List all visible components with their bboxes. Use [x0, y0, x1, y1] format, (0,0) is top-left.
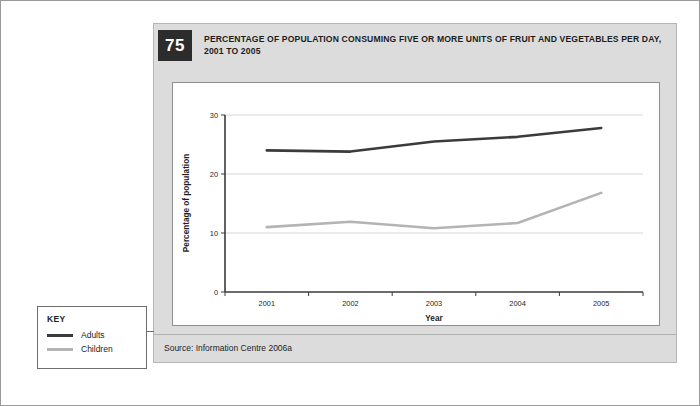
legend-item-adults: Adults — [47, 330, 137, 340]
legend-label-adults: Adults — [81, 330, 105, 340]
x-axis-title: Year — [425, 314, 443, 323]
legend-title: KEY — [47, 314, 137, 324]
svg-text:2001: 2001 — [259, 299, 275, 308]
legend-item-children: Children — [47, 344, 137, 354]
source-note: Source: Information Centre 2006a — [164, 343, 292, 353]
svg-text:0: 0 — [214, 288, 218, 297]
legend-label-children: Children — [81, 344, 113, 354]
legend-swatch-children — [47, 348, 73, 351]
figure-title: PERCENTAGE OF POPULATION CONSUMING FIVE … — [204, 33, 666, 58]
key-connector-line — [147, 331, 154, 332]
figure-number-badge: 75 — [158, 30, 192, 61]
source-divider — [154, 334, 676, 335]
figure-header: 75 PERCENTAGE OF POPULATION CONSUMING FI… — [154, 24, 676, 76]
svg-text:10: 10 — [210, 229, 218, 238]
chart-legend: KEY Adults Children — [37, 306, 147, 369]
svg-text:2004: 2004 — [509, 299, 525, 308]
y-axis-title: Percentage of population — [182, 154, 191, 252]
x-axis-tick-labels: 20012002200320042005 — [259, 299, 610, 308]
y-axis-tick-labels: 0102030 — [210, 111, 218, 297]
svg-text:20: 20 — [210, 170, 218, 179]
page-frame: 75 PERCENTAGE OF POPULATION CONSUMING FI… — [0, 0, 700, 406]
chart-series — [267, 128, 601, 228]
svg-text:30: 30 — [210, 111, 218, 120]
svg-text:2003: 2003 — [426, 299, 442, 308]
svg-text:2005: 2005 — [593, 299, 609, 308]
figure-card: 75 PERCENTAGE OF POPULATION CONSUMING FI… — [153, 23, 677, 363]
legend-swatch-adults — [47, 334, 73, 337]
svg-text:2002: 2002 — [342, 299, 358, 308]
line-chart: 0102030 20012002200320042005 Percentage … — [173, 83, 659, 325]
chart-gridlines — [225, 115, 643, 233]
chart-plot-panel: 0102030 20012002200320042005 Percentage … — [172, 82, 660, 326]
